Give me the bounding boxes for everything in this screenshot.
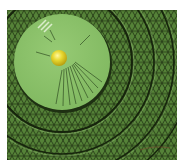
rendered-scene xyxy=(0,0,184,167)
sphere xyxy=(51,50,67,66)
